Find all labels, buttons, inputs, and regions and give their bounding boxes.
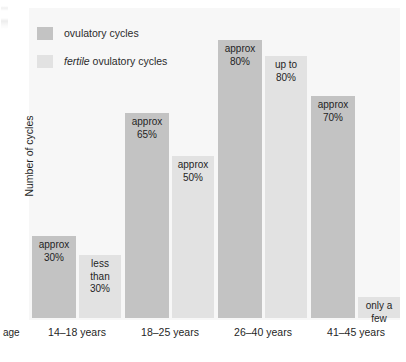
x-axis-tick-label: 26–40 years bbox=[217, 326, 309, 338]
bar: up to 80% bbox=[265, 56, 307, 318]
legend-label-ovulatory: ovulatory cycles bbox=[64, 27, 139, 40]
legend-item-ovulatory-cycles: ovulatory cycles bbox=[37, 26, 267, 41]
bar: approx 50% bbox=[172, 156, 214, 318]
bar: approx 65% bbox=[125, 113, 169, 318]
x-axis-prefix-label: age bbox=[3, 327, 20, 338]
bar: only a few bbox=[358, 297, 400, 318]
x-axis-tick-label: 14–18 years bbox=[31, 326, 123, 338]
bar-value-label: approx 50% bbox=[172, 159, 214, 184]
bar-value-label: up to 80% bbox=[265, 59, 307, 84]
bar-value-label: less than 30% bbox=[79, 258, 121, 296]
legend-label-fertile: fertile ovulatory cycles bbox=[64, 55, 167, 68]
bar: approx 80% bbox=[218, 40, 262, 318]
bar: approx 70% bbox=[311, 96, 355, 318]
bar-value-label: approx 30% bbox=[32, 239, 76, 264]
bar-value-label: approx 65% bbox=[125, 116, 169, 141]
bar-value-label: approx 80% bbox=[218, 43, 262, 68]
page-scan-artifact bbox=[1, 2, 8, 46]
legend-swatch-icon-ovulatory bbox=[37, 27, 53, 40]
legend-label-fertile-emphasis: fertile bbox=[64, 55, 90, 67]
bar-value-label: only a few bbox=[358, 300, 400, 325]
bar-value-label: approx 70% bbox=[311, 99, 355, 124]
chart-figure: ovulatory cycles fertile ovulatory cycle… bbox=[0, 0, 406, 362]
y-axis-title: Number of cycles bbox=[23, 96, 35, 216]
bar: less than 30% bbox=[79, 255, 121, 318]
x-axis-tick-label: 18–25 years bbox=[124, 326, 216, 338]
x-axis-tick-label: 41–45 years bbox=[310, 326, 402, 338]
legend-swatch-icon-fertile bbox=[37, 55, 53, 68]
bar: approx 30% bbox=[32, 236, 76, 318]
legend-label-fertile-rest: ovulatory cycles bbox=[90, 55, 168, 67]
